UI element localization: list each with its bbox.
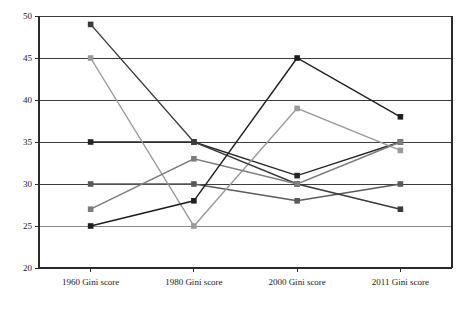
series-belgium <box>88 139 403 178</box>
y-tick-label-30: 30 <box>23 179 33 189</box>
data-point-marker <box>294 106 300 112</box>
data-point-marker <box>294 198 300 204</box>
y-tick-label-20: 20 <box>23 263 33 273</box>
gini-score-line-chart: 20253035404550 1960 Gini score1980 Gini … <box>0 0 463 329</box>
axes-group <box>35 16 452 272</box>
chart-svg: 20253035404550 1960 Gini score1980 Gini … <box>0 0 463 329</box>
y-tick-label-50: 50 <box>23 11 33 21</box>
data-point-marker <box>398 181 404 187</box>
data-point-marker <box>398 206 404 212</box>
data-point-marker <box>191 139 197 145</box>
y-tick-label-35: 35 <box>23 137 33 147</box>
data-point-marker <box>191 223 197 229</box>
series-italy <box>88 139 403 212</box>
data-point-marker <box>294 55 300 61</box>
data-point-marker <box>88 181 94 187</box>
series-germany <box>88 181 403 203</box>
ytick-labels-group: 20253035404550 <box>23 11 33 273</box>
x-tick-label-1: 1980 Gini score <box>165 277 223 287</box>
xtick-labels-group: 1960 Gini score1980 Gini score2000 Gini … <box>62 277 429 287</box>
y-tick-label-45: 45 <box>23 53 33 63</box>
data-point-marker <box>88 55 94 61</box>
data-point-marker <box>88 139 94 145</box>
data-point-marker <box>294 181 300 187</box>
x-tick-label-2: 2000 Gini score <box>268 277 326 287</box>
data-point-marker <box>191 181 197 187</box>
data-point-marker <box>398 148 404 154</box>
y-tick-label-25: 25 <box>23 221 33 231</box>
series-line <box>91 24 401 209</box>
x-tick-label-0: 1960 Gini score <box>62 277 120 287</box>
x-tick-label-3: 2011 Gini score <box>372 277 429 287</box>
data-point-marker <box>88 223 94 229</box>
data-point-marker <box>88 206 94 212</box>
data-point-marker <box>191 156 197 162</box>
data-point-marker <box>398 139 404 145</box>
series-line <box>91 142 401 209</box>
data-point-marker <box>398 114 404 120</box>
data-point-marker <box>191 198 197 204</box>
data-point-marker <box>294 173 300 179</box>
y-tick-label-40: 40 <box>23 95 33 105</box>
series-group <box>88 22 403 229</box>
series-line <box>91 142 401 176</box>
data-point-marker <box>88 22 94 28</box>
